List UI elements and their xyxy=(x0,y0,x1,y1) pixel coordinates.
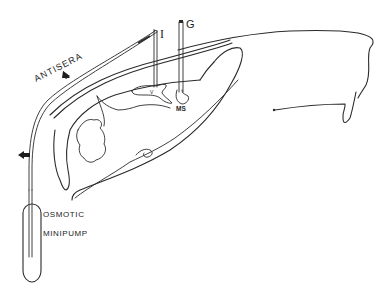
label-minipump: MINIPUMP xyxy=(43,229,88,238)
tubing-arrow xyxy=(18,151,30,159)
head-outline xyxy=(178,30,373,122)
cannula-i xyxy=(154,30,157,87)
label-cannula-g: G xyxy=(186,18,195,30)
label-osmotic: OSMOTIC xyxy=(43,210,85,219)
medial-septum-region xyxy=(176,90,188,104)
label-ventricle: V xyxy=(150,89,154,95)
antisera-flow-arrow xyxy=(62,71,70,79)
diagram-canvas: ANTISERA I G V MS OSMOTIC MINIPUMP xyxy=(0,0,388,295)
brain-outline xyxy=(54,48,243,200)
label-medial-septum: MS xyxy=(176,105,186,112)
osmotic-minipump xyxy=(23,190,41,282)
label-cannula-i: I xyxy=(160,27,164,41)
